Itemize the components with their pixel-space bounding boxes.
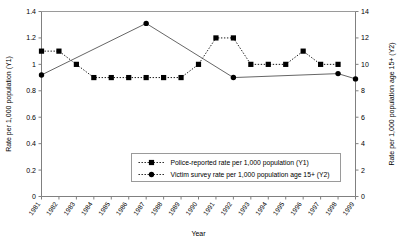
x-tick-label: 1999: [341, 200, 355, 216]
data-point-marker: [178, 75, 183, 80]
data-point-marker: [74, 62, 79, 67]
y2-tick-label: 4: [361, 140, 365, 147]
legend-marker-square: [149, 160, 154, 165]
y2-tick-label: 12: [361, 34, 369, 41]
data-point-marker: [39, 49, 44, 54]
chart-legend: Police-reported rate per 1,000 populatio…: [132, 154, 341, 182]
series-2: [39, 21, 358, 82]
x-tick-label: 1997: [306, 200, 320, 216]
data-point-marker: [231, 35, 236, 40]
y2-tick-label: 0: [361, 193, 365, 200]
legend-label: Police-reported rate per 1,000 populatio…: [171, 159, 309, 167]
data-point-marker: [318, 62, 323, 67]
data-point-marker: [56, 49, 61, 54]
data-point-marker: [144, 75, 149, 80]
legend-label: Victim survey rate per 1,000 population …: [171, 171, 330, 179]
x-tick-label: 1995: [271, 200, 285, 216]
data-point-marker: [283, 62, 288, 67]
y1-tick-label: 1: [32, 61, 36, 68]
x-tick-label: 1990: [184, 200, 198, 216]
data-point-marker: [109, 75, 114, 80]
x-tick-label: 1996: [289, 200, 303, 216]
y2-tick-label: 10: [361, 61, 369, 68]
data-point-marker: [335, 71, 340, 76]
y2-tick-label: 2: [361, 167, 365, 174]
x-tick-label: 1998: [324, 200, 338, 216]
x-tick-label: 1987: [132, 200, 146, 216]
data-point-marker: [196, 62, 201, 67]
y1-tick-label: 1.4: [26, 8, 36, 15]
data-point-marker: [231, 75, 236, 80]
data-point-marker: [39, 72, 44, 77]
chart-container: 00.20.40.60.811.21.402468101214198119821…: [0, 0, 405, 248]
data-point-marker: [248, 62, 253, 67]
x-tick-label: 1993: [237, 200, 251, 216]
data-point-marker: [266, 62, 271, 67]
y1-tick-label: 1.2: [26, 34, 36, 41]
data-point-marker: [91, 75, 96, 80]
y1-tick-label: 0.4: [26, 140, 36, 147]
y1-tick-label: 0: [32, 193, 36, 200]
y2-axis-title: Rate per 1,000 population age 15+ (Y2): [388, 42, 396, 165]
legend-marker-circle: [149, 172, 154, 177]
data-point-marker: [126, 75, 131, 80]
x-tick-label: 1981: [27, 200, 41, 216]
x-tick-label: 1988: [149, 200, 163, 216]
x-tick-label: 1992: [219, 200, 233, 216]
y1-tick-label: 0.2: [26, 167, 36, 174]
x-tick-label: 1994: [254, 200, 268, 216]
series-1: [39, 35, 341, 80]
y2-tick-label: 8: [361, 87, 365, 94]
x-tick-label: 1991: [202, 200, 216, 216]
data-point-marker: [213, 35, 218, 40]
series-layer: [39, 21, 358, 82]
data-point-marker: [335, 62, 340, 67]
x-tick-label: 1985: [97, 200, 111, 216]
y2-tick-label: 14: [361, 8, 369, 15]
x-tick-label: 1986: [114, 200, 128, 216]
labels-layer: 00.20.40.60.811.21.402468101214198119821…: [5, 8, 396, 237]
x-tick-label: 1983: [62, 200, 76, 216]
line-chart: 00.20.40.60.811.21.402468101214198119821…: [0, 0, 405, 248]
data-point-marker: [301, 49, 306, 54]
x-tick-label: 1982: [45, 200, 59, 216]
y1-tick-label: 0.8: [26, 87, 36, 94]
data-point-marker: [143, 21, 148, 26]
data-point-marker: [353, 76, 358, 81]
y2-tick-label: 6: [361, 114, 365, 121]
x-tick-label: 1984: [80, 200, 94, 216]
series-line: [42, 23, 356, 79]
y1-axis-title: Rate per 1,000 population (Y1): [5, 56, 13, 152]
data-point-marker: [161, 75, 166, 80]
y1-tick-label: 0.6: [26, 114, 36, 121]
x-tick-label: 1989: [167, 200, 181, 216]
x-axis-title: Year: [191, 230, 206, 237]
series-line: [42, 38, 339, 78]
